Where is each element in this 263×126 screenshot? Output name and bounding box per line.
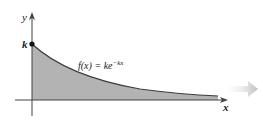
x-axis-label: x bbox=[222, 101, 229, 113]
y-axis-label: y bbox=[21, 11, 27, 23]
function-label-exponent: −kx bbox=[113, 59, 125, 67]
exponential-decay-diagram: y k x f(x) = ke−kx bbox=[0, 0, 263, 126]
intercept-point bbox=[29, 41, 34, 46]
function-label: f(x) = ke−kx bbox=[78, 59, 124, 72]
intercept-label: k bbox=[22, 38, 28, 50]
function-label-base: f(x) = ke bbox=[78, 60, 113, 72]
right-arrow-icon bbox=[226, 81, 258, 97]
area-under-curve bbox=[32, 44, 218, 100]
